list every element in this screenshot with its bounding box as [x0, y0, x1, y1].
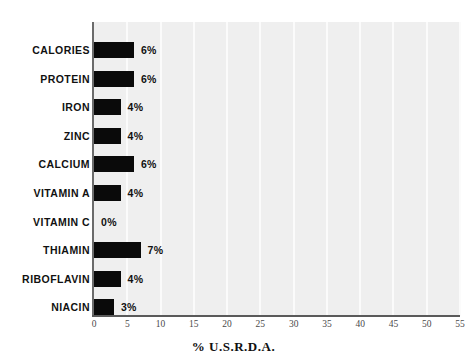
bar-row: THIAMIN7% — [0, 236, 467, 265]
bar — [94, 99, 121, 115]
bar-row: ZINC4% — [0, 121, 467, 150]
bar-row: VITAMIN C0% — [0, 207, 467, 236]
bar-row: CALORIES6% — [0, 36, 467, 65]
bar-row: PROTEIN6% — [0, 64, 467, 93]
x-tick-label: 35 — [322, 319, 332, 329]
x-tick-label: 0 — [92, 319, 97, 329]
bar-row: IRON4% — [0, 93, 467, 122]
x-tick-label: 50 — [422, 319, 432, 329]
bar — [94, 42, 134, 58]
bar-row: RIBOFLAVIN4% — [0, 264, 467, 293]
bar-value-label: 6% — [141, 158, 157, 170]
category-label: ZINC — [64, 130, 90, 142]
bar-value-label: 0% — [101, 216, 117, 228]
bar — [94, 271, 121, 287]
x-tick-label: 5 — [125, 319, 130, 329]
x-tick-label: 55 — [455, 319, 465, 329]
bar — [94, 71, 134, 87]
bar — [94, 128, 121, 144]
x-tick-label: 15 — [189, 319, 199, 329]
bar-value-label: 4% — [128, 130, 144, 142]
category-label: VITAMIN A — [33, 187, 90, 199]
bar — [94, 185, 121, 201]
category-label: PROTEIN — [40, 73, 90, 85]
category-label: VITAMIN C — [33, 216, 90, 228]
bar-value-label: 6% — [141, 44, 157, 56]
x-tick-label: 25 — [256, 319, 266, 329]
bar-value-label: 3% — [121, 301, 137, 313]
x-tick-label: 30 — [289, 319, 299, 329]
x-tick-label: 10 — [156, 319, 166, 329]
category-label: CALORIES — [32, 44, 90, 56]
x-axis-title: % U.S.R.D.A. — [0, 339, 467, 355]
category-label: RIBOFLAVIN — [22, 273, 90, 285]
bar-row: NIACIN3% — [0, 293, 467, 322]
x-tick-label: 40 — [355, 319, 365, 329]
bar-value-label: 4% — [128, 187, 144, 199]
bar-value-label: 4% — [128, 273, 144, 285]
category-label: IRON — [62, 101, 90, 113]
bar-value-label: 4% — [128, 101, 144, 113]
category-label: CALCIUM — [38, 158, 90, 170]
category-label: NIACIN — [51, 301, 90, 313]
bar-row: CALCIUM6% — [0, 150, 467, 179]
x-tick-label: 45 — [389, 319, 399, 329]
bar — [94, 299, 114, 315]
x-tick-label: 20 — [222, 319, 232, 329]
bar-value-label: 6% — [141, 73, 157, 85]
bar — [94, 242, 141, 258]
bar-row: VITAMIN A4% — [0, 179, 467, 208]
category-label: THIAMIN — [43, 244, 90, 256]
bar — [94, 156, 134, 172]
bar-value-label: 7% — [148, 244, 164, 256]
bar-chart: CALORIES6%PROTEIN6%IRON4%ZINC4%CALCIUM6%… — [0, 0, 467, 363]
